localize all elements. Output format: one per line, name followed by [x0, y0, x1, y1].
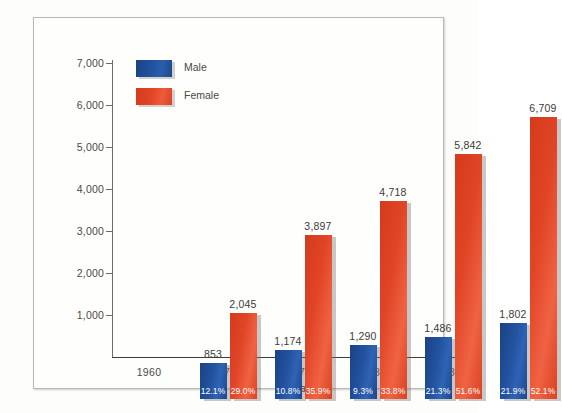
bar-value-label: 2,045	[229, 298, 256, 310]
female-swatch	[136, 88, 172, 105]
bar-percent-label: 51.6%	[456, 386, 481, 396]
bar-male-1980[interactable]: 21.3%1,486	[425, 337, 452, 399]
bar-percent-label: 21.3%	[426, 386, 451, 396]
y-axis-tick	[106, 273, 113, 274]
y-axis-tick-label: 1,000	[46, 309, 104, 321]
bar-group: 10.8%1,17435.9%3,897	[269, 102, 337, 399]
y-axis-tick-label: 5,000	[46, 141, 104, 153]
y-axis-tick-label: 3,000	[46, 225, 104, 237]
bar-value-label: 853	[204, 348, 222, 360]
bar-value-label: 6,709	[529, 102, 556, 114]
bar-female-1960[interactable]: 29.0%2,045	[230, 313, 257, 399]
bar-body	[380, 201, 407, 399]
bar-value-label: 1,290	[349, 330, 376, 342]
male-swatch	[136, 60, 172, 77]
bar-female-1987[interactable]: 52.1%6,709	[530, 117, 557, 399]
bar-group: 21.9%1,80252.1%6,709	[494, 102, 562, 399]
y-axis-tick-label-wrap: 5,000	[34, 141, 104, 153]
y-axis-tick-label-wrap: 3,000	[34, 225, 104, 237]
legend-label-female: Female	[184, 89, 219, 101]
y-axis-tick-label-wrap: 4,000	[34, 183, 104, 195]
bar-body	[530, 117, 557, 399]
y-axis-tick	[106, 189, 113, 190]
bar-percent-label: 12.1%	[201, 386, 226, 396]
bar-group: 12.1%85329.0%2,045	[194, 102, 262, 399]
bar-percent-label: 21.9%	[501, 386, 526, 396]
bar-group: 21.3%1,48651.6%5,842	[419, 102, 487, 399]
y-axis-tick-label: 6,000	[46, 99, 104, 111]
y-axis-tick-label: 7,000	[46, 57, 104, 69]
bar-percent-label: 9.3%	[353, 386, 373, 396]
bar-value-label: 1,174	[274, 335, 301, 347]
y-axis-tick	[106, 315, 113, 316]
bar-value-label: 1,802	[499, 308, 526, 320]
y-axis-tick	[106, 63, 113, 64]
bar-percent-label: 52.1%	[531, 386, 556, 396]
bar-percent-label: 29.0%	[231, 386, 256, 396]
y-axis-tick	[106, 231, 113, 232]
bar-percent-label: 10.8%	[276, 386, 301, 396]
chart-frame: 1,0002,0003,0004,0005,0006,0007,000 1960…	[33, 17, 444, 389]
bar-value-label: 5,842	[454, 139, 481, 151]
bar-value-label: 3,897	[304, 220, 331, 232]
x-axis-tick-label: 1960	[119, 366, 179, 378]
y-axis-tick-label-wrap: 1,000	[34, 309, 104, 321]
bar-percent-label: 33.8%	[381, 386, 406, 396]
legend-label-male: Male	[184, 61, 207, 73]
y-axis-tick	[106, 105, 113, 106]
bar-male-1970[interactable]: 10.8%1,174	[275, 350, 302, 399]
y-axis-tick-label-wrap: 2,000	[34, 267, 104, 279]
y-axis-tick-label-wrap: 6,000	[34, 99, 104, 111]
bar-value-label: 4,718	[379, 186, 406, 198]
y-axis-tick-label-wrap: 7,000	[34, 57, 104, 69]
bar-female-1980[interactable]: 51.6%5,842	[455, 154, 482, 399]
y-axis-tick-label: 2,000	[46, 267, 104, 279]
bar-male-1987[interactable]: 21.9%1,802	[500, 323, 527, 399]
bar-female-1975[interactable]: 33.8%4,718	[380, 201, 407, 399]
bar-body	[305, 235, 332, 399]
bar-value-label: 1,486	[424, 322, 451, 334]
bar-group: 9.3%1,29033.8%4,718	[344, 102, 412, 399]
bar-body	[455, 154, 482, 399]
bar-male-1960[interactable]: 12.1%853	[200, 363, 227, 399]
y-axis-tick-label: 4,000	[46, 183, 104, 195]
bar-percent-label: 35.9%	[306, 386, 331, 396]
bar-female-1970[interactable]: 35.9%3,897	[305, 235, 332, 399]
y-axis-tick	[106, 147, 113, 148]
bar-male-1975[interactable]: 9.3%1,290	[350, 345, 377, 399]
